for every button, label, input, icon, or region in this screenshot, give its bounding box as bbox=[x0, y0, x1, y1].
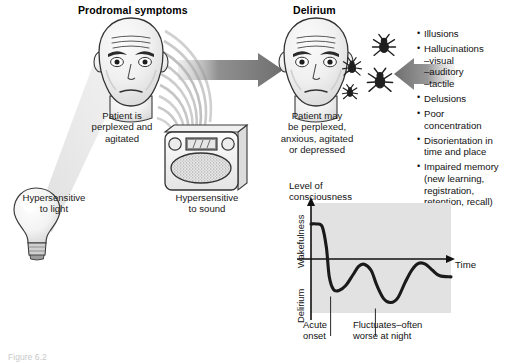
symptom-bullet: Delusions bbox=[417, 93, 509, 105]
chart-annotation-acute-onset: Acute onset bbox=[303, 319, 349, 341]
symptom-subline: concentration bbox=[417, 120, 509, 132]
figure-number-label: Figure 6.2 bbox=[8, 352, 47, 362]
chart-annotation-fluctuates: Fluctuates–often worse at night bbox=[353, 319, 449, 341]
symptom-subline: –auditory bbox=[417, 66, 509, 78]
chart-ylabel-delirium: Delirium bbox=[295, 289, 306, 323]
patient-head-delirium-icon bbox=[279, 18, 353, 122]
symptom-bullet: Impaired memory bbox=[417, 161, 509, 173]
figure-root: Prodromal symptoms Delirium bbox=[0, 0, 510, 363]
caption-patient-delirium: Patient may be perplexed, anxious, agita… bbox=[258, 110, 376, 156]
symptom-subline: –visual bbox=[417, 55, 509, 67]
chart-ylabel-wakefulness: Wakefulness bbox=[295, 215, 306, 268]
symptom-bullet: Poor bbox=[417, 108, 509, 120]
caption-hypersensitive-light: Hypersensitive to light bbox=[6, 192, 102, 215]
radio-icon bbox=[165, 125, 247, 190]
symptom-subline: –tactile bbox=[417, 78, 509, 90]
symptom-bullet: Illusions bbox=[417, 28, 509, 40]
insect-hallucination-icon bbox=[342, 34, 395, 98]
caption-patient-prodromal: Patient is perplexed and agitated bbox=[76, 110, 168, 144]
symptom-bullet: Disorientation in bbox=[417, 135, 509, 147]
consciousness-level-chart: Level of consciousness Wakefulness Delir… bbox=[283, 180, 493, 355]
chart-xlabel-time: Time bbox=[455, 259, 476, 270]
y-axis-arrowhead bbox=[307, 197, 315, 206]
symptom-subline: time and place bbox=[417, 146, 509, 158]
caption-hypersensitive-sound: Hypersensitive to sound bbox=[157, 192, 257, 215]
symptom-bullet: Hallucinations bbox=[417, 43, 509, 55]
